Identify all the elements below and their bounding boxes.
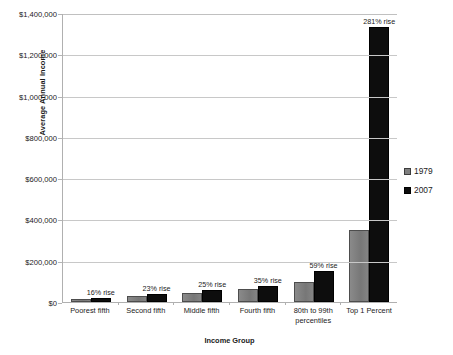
x-axis-tick-label: Middle fifth	[174, 306, 230, 325]
legend-label: 1979	[414, 166, 433, 176]
bar-1979[interactable]	[349, 230, 369, 302]
bar-groups: 16% rise23% rise25% rise35% rise59% rise…	[63, 14, 397, 302]
bar-group: 23% rise	[119, 14, 175, 302]
y-axis-tick-labels: $1,400,000$1,200,000$1,000,000$800,000$6…	[0, 0, 60, 355]
x-axis-tick-label: Second fifth	[118, 306, 174, 325]
x-axis-tick-label: Fourth fifth	[229, 306, 285, 325]
bar-1979[interactable]	[182, 293, 202, 302]
y-axis-tick-label: $800,000	[25, 133, 57, 142]
bar-2007[interactable]: 16% rise	[91, 298, 111, 302]
y-axis-tick-mark	[58, 303, 62, 304]
bar-group: 25% rise	[174, 14, 230, 302]
gridline	[63, 14, 397, 15]
x-axis-tick-label: 80th to 99th percentiles	[285, 306, 341, 325]
bar-group: 59% rise	[286, 14, 342, 302]
bar-2007[interactable]: 59% rise	[314, 271, 334, 302]
y-axis-tick-label: $200,000	[25, 257, 57, 266]
y-axis-tick-label: $1,000,000	[19, 92, 57, 101]
x-axis-tick-labels: Poorest fifthSecond fifthMiddle fifthFou…	[62, 306, 397, 325]
y-axis-tick-label: $0	[49, 299, 57, 308]
bar-value-label: 23% rise	[143, 284, 171, 293]
gridline	[63, 262, 397, 263]
bar-group: 16% rise	[63, 14, 119, 302]
legend: 19792007	[404, 166, 433, 195]
bar-1979[interactable]	[294, 282, 314, 302]
bar-2007[interactable]: 25% rise	[202, 290, 222, 302]
legend-swatch-icon	[404, 187, 411, 194]
y-axis-tick-label: $400,000	[25, 216, 57, 225]
x-axis-tick-label: Top 1 Percent	[341, 306, 397, 325]
bar-1979[interactable]	[238, 289, 258, 302]
gridline	[63, 55, 397, 56]
x-axis-title: Income Group	[62, 336, 397, 345]
gridline	[63, 138, 397, 139]
plot-area: 16% rise23% rise25% rise35% rise59% rise…	[62, 14, 397, 303]
gridline	[63, 97, 397, 98]
bar-1979[interactable]	[127, 296, 147, 302]
gridline	[63, 220, 397, 221]
gridline	[63, 179, 397, 180]
bar-2007[interactable]: 23% rise	[147, 294, 167, 302]
bar-value-label: 16% rise	[87, 288, 115, 297]
bar-chart: Average Annual Income $1,400,000$1,200,0…	[0, 0, 453, 355]
y-axis-tick-label: $1,400,000	[19, 10, 57, 19]
legend-label: 2007	[414, 185, 433, 195]
bar-1979[interactable]	[71, 299, 91, 302]
bar-value-label: 281% rise	[363, 17, 395, 26]
bar-value-label: 25% rise	[198, 280, 226, 289]
legend-item-2007[interactable]: 2007	[404, 185, 433, 195]
y-axis-tick-label: $600,000	[25, 175, 57, 184]
x-axis-tick-label: Poorest fifth	[62, 306, 118, 325]
y-axis-tick-label: $1,200,000	[19, 51, 57, 60]
legend-swatch-icon	[404, 168, 411, 175]
bar-2007[interactable]: 35% rise	[258, 286, 278, 302]
legend-item-1979[interactable]: 1979	[404, 166, 433, 176]
bar-group: 35% rise	[230, 14, 286, 302]
bar-group: 281% rise	[341, 14, 397, 302]
bar-value-label: 35% rise	[254, 276, 282, 285]
